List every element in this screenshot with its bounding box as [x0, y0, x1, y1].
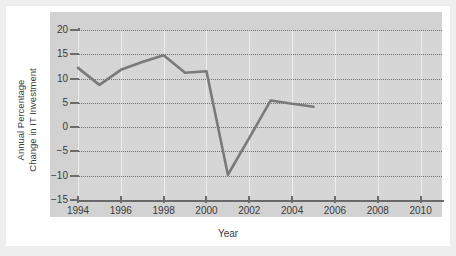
series-line-layer — [0, 0, 456, 256]
line-chart-figure: Annual Percentage Change in IT Investmen… — [0, 0, 456, 256]
chart-screenshot: Annual Percentage Change in IT Investmen… — [0, 0, 456, 256]
series-line-it-investment — [78, 55, 314, 174]
x-axis-title: Year — [0, 228, 456, 239]
